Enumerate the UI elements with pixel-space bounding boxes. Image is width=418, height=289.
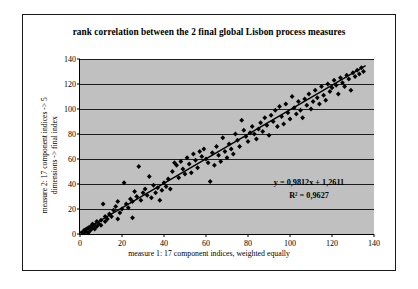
data-point <box>346 77 351 82</box>
data-point <box>153 190 158 195</box>
data-point <box>170 169 175 174</box>
data-point <box>323 98 328 103</box>
data-point <box>115 217 120 222</box>
data-point <box>189 170 194 175</box>
scatter-series <box>80 59 374 234</box>
data-point <box>136 164 141 169</box>
data-point <box>214 144 219 149</box>
data-point <box>304 103 309 108</box>
data-point <box>151 183 156 188</box>
data-point <box>231 152 236 157</box>
data-point <box>254 137 259 142</box>
data-point <box>269 113 274 118</box>
data-point <box>197 149 202 154</box>
x-tick-label: 0 <box>78 239 82 248</box>
data-point <box>246 139 251 144</box>
data-point <box>191 152 196 157</box>
data-point <box>262 115 267 120</box>
x-axis-title: measure 1: 17 component indices, weighte… <box>23 249 395 258</box>
x-tick-mark <box>290 234 291 237</box>
trendline-equation-annotation: y = 0,9812x + 1,2611 R² = 0,9627 <box>253 177 365 202</box>
data-point <box>208 179 213 184</box>
y-tick-label: 60 <box>68 155 76 164</box>
data-point <box>185 155 190 160</box>
x-tick-label: 60 <box>202 239 210 248</box>
data-point <box>157 198 162 203</box>
data-point <box>229 147 234 152</box>
x-tick-mark <box>248 234 249 237</box>
data-point <box>290 94 295 99</box>
data-point <box>258 120 263 125</box>
data-point <box>206 160 211 165</box>
y-tick-label: 80 <box>68 130 76 139</box>
data-point <box>216 153 221 158</box>
data-point <box>118 210 123 215</box>
y-tick-label: 40 <box>68 180 76 189</box>
y-tick-label: 140 <box>64 55 76 64</box>
data-point <box>325 82 330 87</box>
x-tick-mark <box>332 234 333 237</box>
data-point <box>309 107 314 112</box>
trendline-r-squared: R² = 0,9627 <box>253 190 365 203</box>
y-axis-title: measure 2: 17 component indices -> 5 dim… <box>40 65 61 245</box>
trendline-equation: y = 0,9812x + 1,2611 <box>253 177 365 190</box>
data-point <box>220 135 225 140</box>
data-point <box>298 108 303 113</box>
y-tick-label: 100 <box>64 105 76 114</box>
x-tick-label: 20 <box>118 239 126 248</box>
chart-title: rank correlation between the 2 final glo… <box>23 27 395 37</box>
data-point <box>336 92 341 97</box>
data-point <box>193 158 198 163</box>
data-point <box>357 72 362 77</box>
data-point <box>277 104 282 109</box>
x-tick-label: 80 <box>244 239 252 248</box>
data-point <box>115 199 120 204</box>
plot-area: 020406080100120140 020406080100120140 y … <box>79 59 374 235</box>
x-tick-mark <box>374 234 375 237</box>
trendline <box>80 66 366 233</box>
y-axis-title-line-1: measure 2: 17 component indices -> 5 <box>40 65 50 245</box>
data-point <box>164 184 169 189</box>
data-point <box>321 93 326 98</box>
x-tick-label: 140 <box>368 239 380 248</box>
x-tick-mark <box>206 234 207 237</box>
y-tick-label: 0 <box>72 230 76 239</box>
x-tick-mark <box>80 234 81 237</box>
data-point <box>178 159 183 164</box>
data-point <box>147 174 152 179</box>
data-point <box>275 124 280 129</box>
data-point <box>273 108 278 113</box>
data-point <box>332 78 337 83</box>
data-point <box>187 162 192 167</box>
data-point <box>317 102 322 107</box>
y-tick-label: 20 <box>68 205 76 214</box>
data-point <box>122 180 127 185</box>
y-tick-label: 120 <box>64 80 76 89</box>
data-point <box>361 69 366 74</box>
data-point <box>286 110 291 115</box>
x-tick-mark <box>164 234 165 237</box>
data-point <box>349 88 354 93</box>
data-point <box>342 84 347 89</box>
data-point <box>250 124 255 129</box>
data-point <box>300 115 305 120</box>
data-point <box>241 128 246 133</box>
data-point <box>353 74 358 79</box>
data-point <box>279 114 284 119</box>
x-tick-label: 100 <box>284 239 296 248</box>
data-point <box>160 188 165 193</box>
data-point <box>218 159 223 164</box>
data-point <box>233 132 238 137</box>
y-axis-title-line-2: dimensions -> final index <box>50 65 60 245</box>
data-point <box>340 80 345 85</box>
data-point <box>101 202 106 207</box>
data-point <box>202 147 207 152</box>
data-point <box>212 163 217 168</box>
data-point <box>168 187 173 192</box>
data-point <box>283 102 288 107</box>
data-point <box>149 195 154 200</box>
data-point <box>294 112 299 117</box>
x-tick-mark <box>122 234 123 237</box>
data-point <box>281 122 286 127</box>
data-point <box>267 133 272 138</box>
